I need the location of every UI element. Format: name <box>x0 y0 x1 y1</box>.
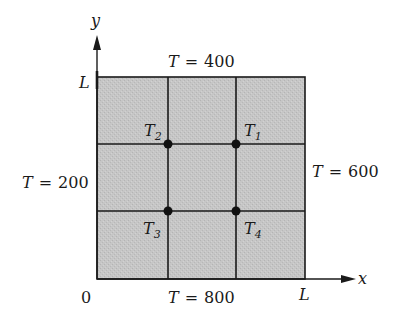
x-axis-arrow-icon <box>341 275 356 283</box>
y-axis-label: y <box>90 11 101 30</box>
x-axis-label: x <box>358 269 367 288</box>
x-end-label: L <box>298 285 310 304</box>
node-T1-dot <box>232 140 241 149</box>
domain-square <box>97 77 305 279</box>
boundary-right-label: T=600 <box>312 162 379 181</box>
origin-label: 0 <box>81 288 91 307</box>
y-axis-arrow-icon <box>93 35 101 50</box>
node-T3-dot <box>164 207 173 216</box>
boundary-left-label: T=200 <box>22 173 89 192</box>
boundary-bottom-label: T=800 <box>168 288 235 307</box>
boundary-top-label: T=400 <box>168 52 235 71</box>
diagram-canvas: y x L L 0 T=400 T=800 T=200 T=600 T1 T2 … <box>0 0 398 321</box>
node-T4-dot <box>232 207 241 216</box>
node-T2-dot <box>164 140 173 149</box>
y-end-label: L <box>78 73 90 92</box>
